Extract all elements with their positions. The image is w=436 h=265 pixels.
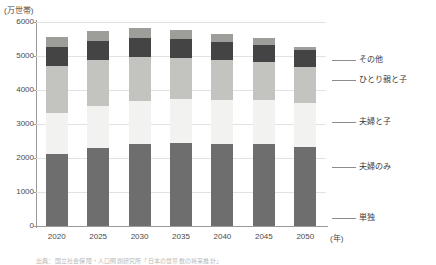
x-tick-label: 2035 [164, 232, 198, 241]
bar-2045[interactable] [253, 38, 275, 226]
bar-segment [46, 113, 68, 154]
legend-leader-line [332, 122, 356, 123]
x-tick-label: 2025 [81, 232, 115, 241]
legend-leader-line [332, 218, 356, 219]
bar-segment [87, 41, 109, 60]
bar-segment [211, 60, 233, 99]
bar-2035[interactable] [170, 30, 192, 226]
x-tick-label: 2020 [40, 232, 74, 241]
x-tick-label: 2040 [205, 232, 239, 241]
legend-label: ひとり親と子 [359, 75, 407, 84]
bar-segment [294, 50, 316, 66]
bar-2020[interactable] [46, 37, 68, 226]
y-tick-label: 1000 [4, 188, 34, 196]
bar-segment [294, 103, 316, 147]
x-tick-label: 2045 [247, 232, 281, 241]
y-tick-label: 3000 [4, 120, 34, 128]
y-tick-mark [33, 226, 36, 227]
bar-segment [253, 100, 275, 144]
bar-segment [294, 147, 316, 226]
bar-segment [170, 143, 192, 226]
bar-segment [170, 39, 192, 58]
legend-leader-line [332, 60, 356, 61]
bar-segment [46, 37, 68, 47]
bar-segment [46, 66, 68, 114]
bar-segment [170, 30, 192, 39]
bar-segment [46, 47, 68, 66]
bar-segment [253, 144, 275, 226]
bar-segment [253, 45, 275, 62]
bar-segment [170, 58, 192, 99]
bar-2025[interactable] [87, 31, 109, 226]
bar-segment [253, 38, 275, 45]
bar-segment [46, 154, 68, 226]
bar-segment [87, 106, 109, 148]
legend-label: 単独 [359, 213, 375, 222]
bar-segment [129, 28, 151, 38]
legend-label: 夫婦のみ [359, 162, 391, 171]
legend-leader-line [332, 167, 356, 168]
legend-label: 夫婦と子 [359, 117, 391, 126]
bar-2030[interactable] [129, 28, 151, 226]
bar-2050[interactable] [294, 47, 316, 226]
y-tick-label: 6000 [4, 18, 34, 26]
chart-footnote: 出典：国立社会保障・人口問題研究所「日本の世帯数の将来推計」 [36, 256, 222, 265]
bar-segment [129, 57, 151, 101]
y-tick-label: 2000 [4, 154, 34, 162]
bar-segment [129, 101, 151, 145]
bar-segment [87, 60, 109, 106]
y-tick-label: 5000 [4, 52, 34, 60]
bar-segment [129, 144, 151, 226]
bar-2040[interactable] [211, 34, 233, 226]
bar-segment [170, 99, 192, 143]
plot-area [36, 22, 326, 226]
chart-legend: その他ひとり親と子夫婦と子夫婦のみ単独 [330, 22, 436, 227]
bar-segment [294, 67, 316, 103]
y-axis-ticks: 0100020003000400050006000 [0, 0, 34, 263]
x-tick-label: 2030 [123, 232, 157, 241]
y-tick-label: 0 [4, 222, 34, 230]
x-tick-label: 2050 [288, 232, 322, 241]
bar-segment [87, 31, 109, 41]
legend-label: その他 [359, 55, 383, 64]
x-axis-line [36, 226, 328, 227]
bar-segment [129, 38, 151, 57]
x-axis-unit-label: (年) [330, 232, 343, 243]
bar-segment [211, 100, 233, 144]
y-tick-label: 4000 [4, 86, 34, 94]
bar-segment [211, 144, 233, 226]
bar-segment [211, 34, 233, 42]
bar-segment [87, 148, 109, 226]
gridline [36, 22, 326, 23]
bar-segment [211, 42, 233, 60]
legend-leader-line [332, 80, 356, 81]
bar-segment [253, 62, 275, 100]
